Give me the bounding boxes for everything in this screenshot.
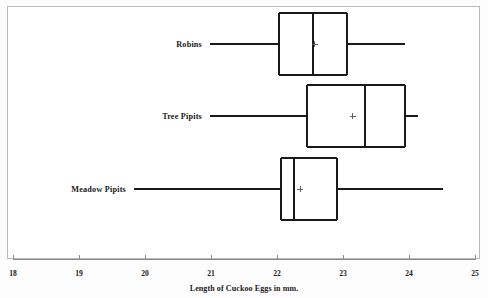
boxplot-series-tree-pipits bbox=[210, 85, 418, 147]
x-tick-label-25: 25 bbox=[471, 269, 479, 278]
category-label-meadow-pipits: Meadow Pipits bbox=[0, 185, 130, 194]
x-tick-label-24: 24 bbox=[405, 269, 413, 278]
x-tick-label-20: 20 bbox=[141, 269, 149, 278]
x-axis-title: Length of Cuckoo Eggs in mm. bbox=[190, 284, 299, 293]
x-tick-label-22: 22 bbox=[273, 269, 281, 278]
x-tick-label-19: 19 bbox=[75, 269, 83, 278]
boxplot-figure: Robins Tree Pipits Meadow Pipits 18 19 2… bbox=[0, 0, 488, 298]
boxplot-series-robins bbox=[210, 13, 405, 75]
x-tick-label-23: 23 bbox=[339, 269, 347, 278]
boxplot-series-meadow-pipits bbox=[134, 158, 443, 220]
x-tick-label-21: 21 bbox=[207, 269, 215, 278]
category-label-robins: Robins bbox=[0, 40, 206, 49]
category-label-tree-pipits: Tree Pipits bbox=[0, 112, 206, 121]
x-tick-label-18: 18 bbox=[9, 269, 17, 278]
